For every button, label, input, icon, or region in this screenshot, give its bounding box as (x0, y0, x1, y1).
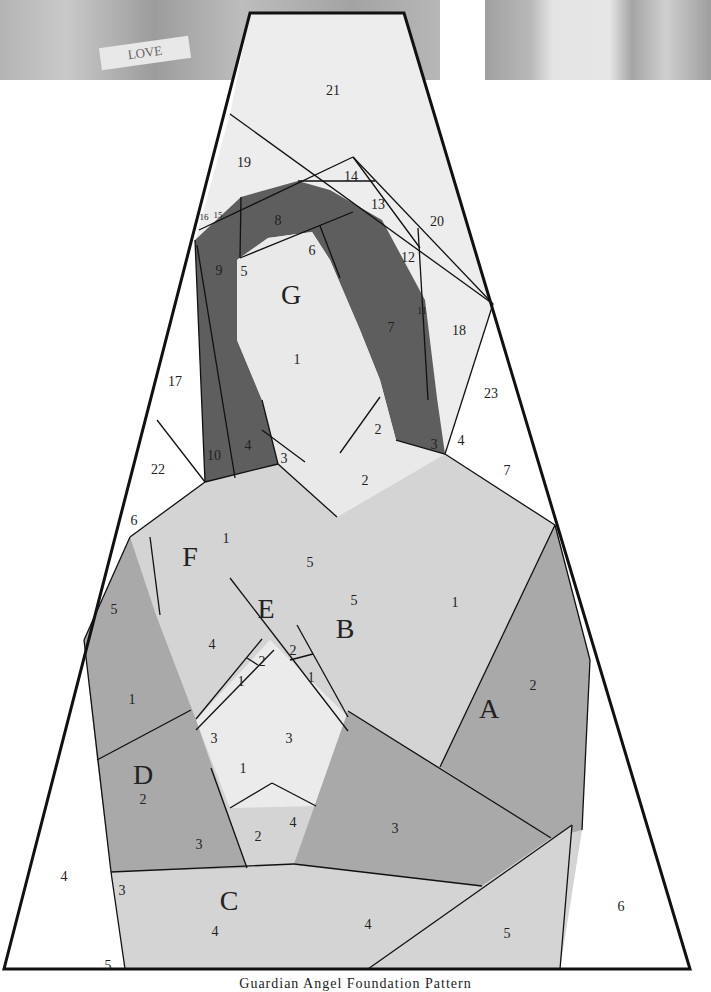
piece-number: 5 (241, 264, 248, 279)
piece-number: 2 (259, 654, 266, 669)
piece-number: 16 (200, 212, 210, 222)
piece-number: 4 (209, 637, 216, 652)
piece-number: 5 (307, 555, 314, 570)
piece-number: 1 (452, 595, 459, 610)
section-letter-E: E (257, 593, 274, 624)
piece-number: 8 (275, 213, 282, 228)
piece-number: 1 (294, 352, 301, 367)
section-letter-F: F (182, 541, 198, 572)
piece-number: 23 (484, 386, 498, 401)
piece-number: 1 (129, 692, 136, 707)
piece-number: 3 (392, 821, 399, 836)
section-letter-C: C (220, 885, 239, 916)
piece-number: 4 (290, 815, 297, 830)
piece-number: 19 (237, 155, 251, 170)
piece-number: 13 (371, 197, 385, 212)
piece-number: 4 (212, 924, 219, 939)
piece-number: 22 (151, 462, 165, 477)
piece-number: 7 (388, 320, 395, 335)
piece-number: 3 (281, 451, 288, 466)
piece-number: 3 (431, 437, 438, 452)
section-letter-G: G (281, 279, 301, 310)
piece-number: 6 (618, 899, 625, 914)
foundation-pattern-diagram: GFEBADC211914132016158956121171811723243… (0, 0, 711, 992)
piece-number: 4 (245, 438, 252, 453)
piece-number: 2 (530, 678, 537, 693)
piece-number: 3 (211, 731, 218, 746)
piece-number: 9 (216, 263, 223, 278)
piece-number: 7 (504, 463, 511, 478)
piece-number: 3 (286, 731, 293, 746)
piece-number: 5 (111, 602, 118, 617)
piece-number: 20 (430, 214, 444, 229)
piece-number: 2 (362, 473, 369, 488)
piece-number: 12 (401, 250, 415, 265)
piece-number: 14 (344, 169, 358, 184)
piece-number: 4 (61, 869, 68, 884)
section-letter-B: B (336, 613, 355, 644)
piece-number: 2 (290, 643, 297, 658)
piece-number: 5 (351, 593, 358, 608)
piece-number: 6 (131, 513, 138, 528)
piece-number: 5 (105, 958, 112, 973)
piece-number: 17 (168, 374, 182, 389)
piece-number: 1 (308, 670, 315, 685)
piece-number: 15 (214, 210, 224, 220)
piece-number: 2 (140, 792, 147, 807)
diagram-caption: Guardian Angel Foundation Pattern (0, 976, 711, 992)
piece-number: 1 (238, 674, 245, 689)
piece-number: 18 (452, 323, 466, 338)
piece-number: 1 (223, 531, 230, 546)
piece-number: 4 (458, 433, 465, 448)
piece-number: 11 (417, 305, 427, 316)
piece-number: 2 (375, 422, 382, 437)
piece-number: 4 (365, 917, 372, 932)
piece-number: 6 (309, 243, 316, 258)
piece-number: 3 (196, 837, 203, 852)
section-letter-A: A (479, 693, 500, 724)
piece-number: 3 (119, 883, 126, 898)
piece-number: 5 (504, 926, 511, 941)
piece-number: 21 (326, 83, 340, 98)
piece-number: 1 (240, 761, 247, 776)
section-letter-D: D (133, 759, 153, 790)
piece-number: 2 (255, 829, 262, 844)
piece-number: 10 (207, 448, 221, 463)
